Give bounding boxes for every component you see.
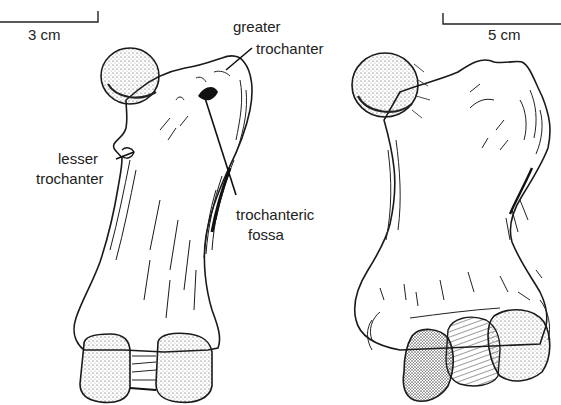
scale-label-right: 5 cm: [488, 26, 521, 44]
label-greater-trochanter-line1: greater: [233, 18, 281, 36]
right-femur: [352, 53, 550, 401]
scale-label-left: 3 cm: [28, 26, 61, 44]
scale-bar-left: [0, 11, 98, 22]
label-trochanteric-fossa-line1: trochanteric: [236, 206, 314, 224]
left-medial-condyle: [80, 334, 130, 402]
femur-comparison-figure: 3 cm 5 cm greater trochanter lesser troc…: [0, 0, 561, 405]
label-lesser-trochanter-line2: trochanter: [36, 170, 104, 188]
left-femur: [74, 48, 252, 402]
right-medial-condyle: [403, 329, 453, 401]
illustration-canvas: [0, 0, 561, 405]
left-femur-outline: [74, 56, 252, 352]
left-lateral-condyle: [156, 333, 212, 402]
scale-bar-right: [443, 13, 561, 24]
label-trochanteric-fossa-line2: fossa: [248, 226, 284, 244]
right-lateral-condyle: [488, 310, 550, 381]
label-greater-trochanter-line2: trochanter: [256, 40, 324, 58]
label-lesser-trochanter-line1: lesser: [58, 150, 98, 168]
